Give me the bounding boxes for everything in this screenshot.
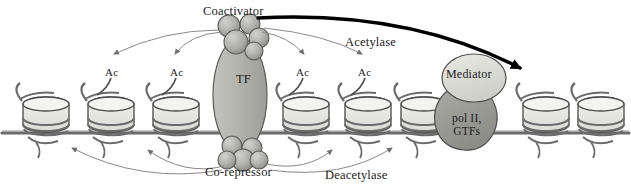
nucleosome xyxy=(516,83,569,158)
polii-line2: GTFs xyxy=(452,125,482,138)
deacetylase-label: Deacetylase xyxy=(325,168,388,183)
tf-label: TF xyxy=(236,72,251,87)
mediator-label: Mediator xyxy=(446,67,492,82)
acetyl-mark-label: Ac xyxy=(170,66,183,78)
polii-line1: pol II, xyxy=(452,112,482,125)
nucleosome xyxy=(571,83,624,158)
corepressor-label: Co-repressor xyxy=(205,165,272,180)
nucleosome xyxy=(81,83,134,158)
nucleosome xyxy=(16,83,69,158)
acetylase-label: Acetylase xyxy=(345,35,396,50)
acetyl-mark-label: Ac xyxy=(105,66,118,78)
coactivator-label: Coactivator xyxy=(203,4,264,19)
nucleosome xyxy=(276,83,329,158)
diagram-root: Coactivator Acetylase TF Mediator pol II… xyxy=(0,0,631,195)
acetyl-mark-label: Ac xyxy=(358,66,371,78)
nucleosome xyxy=(146,83,199,158)
diagram-canvas xyxy=(0,0,631,195)
nucleosome-group xyxy=(16,83,624,158)
nucleosome xyxy=(338,83,391,158)
polii-gtf-label: pol II, GTFs xyxy=(452,112,482,138)
acetyl-mark-label: Ac xyxy=(296,66,309,78)
